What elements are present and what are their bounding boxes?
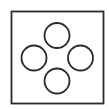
diagram-canvas — [0, 0, 109, 109]
circles-group — [22, 23, 94, 94]
left-circle — [22, 46, 47, 71]
bottom-circle — [45, 69, 70, 94]
four-circles-in-square-diagram — [0, 0, 109, 109]
right-circle — [68, 46, 93, 71]
top-circle — [45, 23, 70, 48]
